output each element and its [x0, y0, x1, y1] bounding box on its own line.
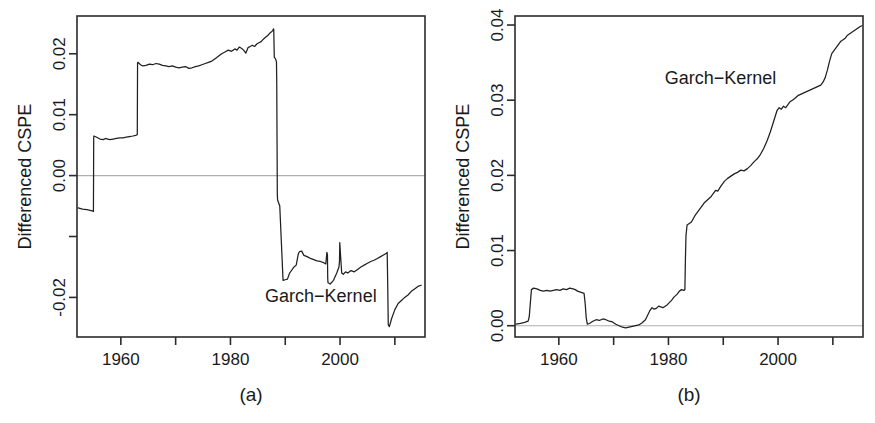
panel-b-xtick-label-1980: 1980 [650, 350, 688, 369]
panel-a-xtick-label-1980: 1980 [212, 350, 250, 369]
panel-a-y-axis-title: Differenced CSPE [15, 104, 35, 250]
panel-a-ytick-label-0: 0.00 [50, 159, 69, 192]
panel-b-ytick-label-0: 0.00 [488, 309, 507, 342]
panel-a-text-group: 1960198020000.020.010.00-0.02Differenced… [15, 37, 377, 405]
panel-a-ytick-label-0.01: 0.01 [50, 98, 69, 131]
panel-a-caption: (a) [239, 384, 262, 405]
chart-panel-a: 1960198020000.020.010.00-0.02Differenced… [0, 0, 437, 423]
panel-a-plot-group [78, 29, 421, 327]
panel-b-svg: 1960198020000.000.010.020.030.04Differen… [438, 0, 875, 423]
panel-a-series-annotation: Garch−Kernel [265, 286, 377, 306]
panel-b-ytick-label-0.04: 0.04 [488, 8, 507, 41]
panel-b-axes-group [507, 16, 863, 345]
panel-a-ytick-label--0.02: -0.02 [50, 278, 69, 317]
panel-b-y-axis-title: Differenced CSPE [453, 104, 473, 250]
panel-a-xtick-label-1960: 1960 [102, 350, 140, 369]
panel-b-xtick-label-2000: 2000 [759, 350, 797, 369]
panel-a-svg: 1960198020000.020.010.00-0.02Differenced… [0, 0, 437, 423]
chart-panel-b: 1960198020000.000.010.020.030.04Differen… [438, 0, 875, 423]
panel-b-caption: (b) [677, 384, 700, 405]
panel-b-text-group: 1960198020000.000.010.020.030.04Differen… [453, 8, 797, 405]
panel-a-ytick-label-0.02: 0.02 [50, 37, 69, 70]
panel-b-ytick-label-0.03: 0.03 [488, 84, 507, 117]
panel-b-xtick-label-1960: 1960 [540, 350, 578, 369]
panel-b-ytick-label-0.01: 0.01 [488, 234, 507, 267]
figure-container: 1960198020000.020.010.00-0.02Differenced… [0, 0, 875, 423]
panel-b-ytick-label-0.02: 0.02 [488, 159, 507, 192]
panel-a-xtick-label-2000: 2000 [321, 350, 359, 369]
panel-a-series-line-0 [78, 29, 421, 327]
panel-b-series-annotation: Garch−Kernel [665, 68, 777, 88]
